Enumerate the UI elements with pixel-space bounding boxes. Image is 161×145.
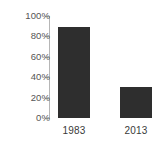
y-axis-tick-label: 100%: [6, 11, 50, 21]
plot-area: 0%20%40%60%80%100% 19832013: [0, 0, 161, 145]
y-axis-tick-label: 80%: [6, 32, 50, 42]
bar-1983: [58, 27, 90, 118]
bar-chart: 0%20%40%60%80%100% 19832013: [0, 0, 161, 145]
x-axis-label-2013: 2013: [112, 126, 160, 136]
bar-2013: [120, 87, 152, 118]
y-axis-tick-label: 40%: [6, 72, 50, 82]
y-axis-tick-label: 20%: [6, 93, 50, 103]
y-axis-tick-label: 60%: [6, 52, 50, 62]
x-axis-label-1983: 1983: [50, 126, 98, 136]
y-axis-tick-label: 0%: [6, 113, 50, 123]
